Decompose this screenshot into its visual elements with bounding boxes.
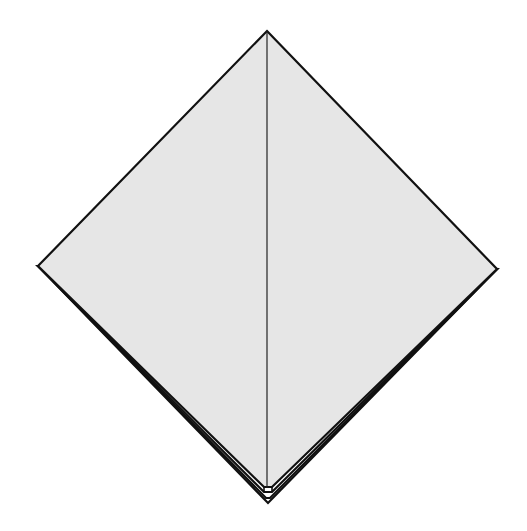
origami-diagram bbox=[0, 0, 527, 531]
